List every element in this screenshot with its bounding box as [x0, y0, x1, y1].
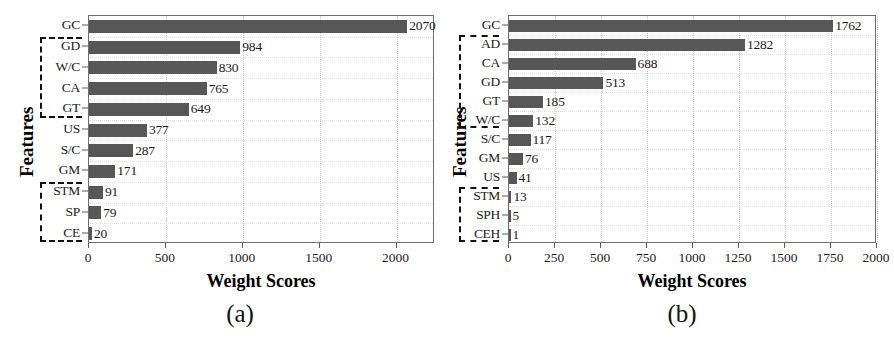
bar-row: 287 — [89, 144, 433, 157]
y-tick-label: US — [63, 121, 80, 137]
subcaption-b: (b) — [632, 300, 732, 328]
x-axis-title-a: Weight Scores — [88, 271, 434, 292]
x-axis-title-b: Weight Scores — [508, 271, 876, 292]
grid-line-horizontal — [89, 99, 433, 101]
bar-value-label: 5 — [513, 208, 520, 224]
bar-value-label: 1762 — [835, 18, 861, 34]
bar-value-label: 984 — [242, 39, 262, 55]
bar-value-label: 171 — [117, 163, 137, 179]
y-tick-mark — [82, 66, 88, 67]
bar-row: 1282 — [509, 39, 875, 51]
bar — [89, 20, 407, 33]
bar — [509, 153, 523, 165]
grid-line-horizontal — [509, 54, 875, 56]
y-tick-label: GC — [62, 17, 80, 33]
bar-value-label: 765 — [209, 81, 229, 97]
y-tick-mark — [502, 119, 508, 120]
x-tick-mark — [784, 243, 785, 248]
feature-group-bracket — [459, 187, 499, 242]
y-tick-mark — [502, 62, 508, 63]
grid-line-horizontal — [509, 73, 875, 75]
feature-group-bracket — [459, 35, 499, 128]
grid-line-horizontal — [509, 35, 875, 37]
bar — [89, 144, 133, 157]
bar-value-label: 79 — [103, 205, 116, 221]
grid-line-horizontal — [89, 120, 433, 122]
x-tick-label: 0 — [85, 250, 92, 266]
bar — [89, 61, 217, 74]
bar-value-label: 1282 — [747, 37, 773, 53]
y-tick-mark — [82, 149, 88, 150]
bar-row: 79 — [89, 206, 433, 219]
grid-line-horizontal — [509, 187, 875, 189]
bar — [89, 124, 147, 137]
bar-row: 765 — [89, 82, 433, 95]
x-tick-mark — [692, 243, 693, 248]
bar-row: 132 — [509, 115, 875, 127]
x-tick-label: 1500 — [771, 250, 798, 266]
y-tick-mark — [82, 170, 88, 171]
x-tick-mark — [830, 243, 831, 248]
grid-line-vertical — [877, 16, 879, 242]
bar — [509, 191, 511, 203]
grid-line-horizontal — [509, 206, 875, 208]
bar-row: 91 — [89, 186, 433, 199]
bar-row: 5 — [509, 210, 875, 222]
figure-two-bar-charts: Features 2070984830765649377287171917920… — [0, 0, 894, 361]
bar-row: 984 — [89, 41, 433, 54]
y-tick-mark — [82, 191, 88, 192]
x-tick-mark — [508, 243, 509, 248]
y-tick-mark — [502, 214, 508, 215]
grid-line-horizontal — [509, 111, 875, 113]
grid-line-horizontal — [89, 161, 433, 163]
bar — [509, 229, 511, 241]
bar — [509, 172, 517, 184]
bar-value-label: 117 — [533, 132, 552, 148]
bar — [89, 186, 103, 199]
grid-line-horizontal — [509, 225, 875, 227]
y-tick-mark — [502, 157, 508, 158]
bar — [89, 165, 115, 178]
feature-group-bracket — [40, 182, 82, 242]
y-tick-mark — [502, 24, 508, 25]
bar-value-label: 513 — [605, 75, 625, 91]
y-tick-label: S/C — [61, 142, 80, 158]
grid-line-horizontal — [509, 149, 875, 151]
y-tick-mark — [502, 100, 508, 101]
bar — [89, 82, 207, 95]
bar-value-label: 2070 — [409, 18, 435, 34]
y-tick-mark — [502, 138, 508, 139]
bar-value-label: 287 — [135, 143, 155, 159]
x-tick-label: 750 — [636, 250, 656, 266]
bar-row: 649 — [89, 103, 433, 116]
x-tick-mark — [738, 243, 739, 248]
bar-row: 117 — [509, 134, 875, 146]
bar-row: 13 — [509, 191, 875, 203]
bar-value-label: 688 — [638, 56, 658, 72]
bar-row: 688 — [509, 58, 875, 70]
bar-row: 20 — [89, 227, 433, 240]
y-tick-mark — [502, 43, 508, 44]
x-tick-mark — [242, 243, 243, 248]
bar — [89, 103, 189, 116]
y-tick-mark — [82, 46, 88, 47]
x-tick-mark — [876, 243, 877, 248]
x-tick-mark — [88, 243, 89, 248]
bar-value-label: 830 — [219, 60, 239, 76]
bar-row: 41 — [509, 172, 875, 184]
bar-row: 185 — [509, 96, 875, 108]
bar-row: 76 — [509, 153, 875, 165]
grid-line-horizontal — [89, 182, 433, 184]
bar — [509, 77, 603, 89]
bar-row: 377 — [89, 124, 433, 137]
x-tick-label: 2000 — [382, 250, 409, 266]
y-tick-label: GC — [482, 17, 500, 33]
x-tick-label: 500 — [155, 250, 175, 266]
bar-row: 513 — [509, 77, 875, 89]
grid-line-horizontal — [509, 130, 875, 132]
bar — [509, 96, 543, 108]
bar-value-label: 91 — [105, 184, 118, 200]
feature-group-bracket — [40, 37, 82, 118]
subcaption-a: (a) — [190, 300, 290, 328]
y-tick-label: S/C — [481, 131, 500, 147]
